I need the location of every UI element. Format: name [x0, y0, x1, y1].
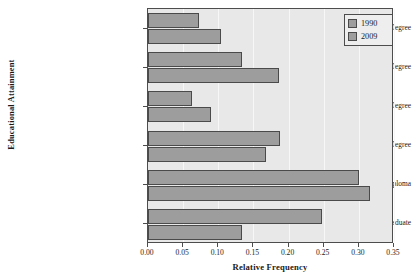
x-axis-tick: [288, 243, 289, 247]
x-axis-tick-label: 0.10: [197, 248, 237, 257]
bar-1990: [148, 131, 280, 146]
x-axis-title: Relative Frequency: [147, 262, 393, 272]
legend-swatch: [348, 19, 357, 28]
x-axis-tick-label: 0.25: [303, 248, 343, 257]
legend-swatch: [348, 32, 357, 41]
x-axis-tick: [182, 243, 183, 247]
legend-item: 2009: [348, 30, 389, 43]
bar-group: [148, 52, 392, 83]
bar-1990: [148, 170, 359, 185]
x-axis-tick: [147, 243, 148, 247]
legend-label: 2009: [361, 32, 377, 41]
gridline: [394, 9, 395, 242]
legend-item: 1990: [348, 17, 389, 30]
x-axis-tick-label: 0.35: [373, 248, 413, 257]
x-axis-tick: [252, 243, 253, 247]
bar-2009: [148, 147, 266, 162]
bar-1990: [148, 13, 199, 28]
bar-group: [148, 91, 392, 122]
bar-group: [148, 170, 392, 201]
bar-2009: [148, 29, 221, 44]
legend-label: 1990: [361, 19, 377, 28]
bar-2009: [148, 68, 279, 83]
x-axis-tick: [323, 243, 324, 247]
chart-legend: 19902009: [344, 14, 393, 46]
bar-group: [148, 209, 392, 240]
bar-group: [148, 131, 392, 162]
x-axis-tick-label: 0.30: [338, 248, 378, 257]
bar-1990: [148, 91, 192, 106]
x-axis-tick: [393, 243, 394, 247]
bar-1990: [148, 52, 242, 67]
x-axis-tick: [217, 243, 218, 247]
bar-1990: [148, 209, 322, 224]
x-axis-tick-label: 0.20: [268, 248, 308, 257]
bar-2009: [148, 225, 242, 240]
bar-2009: [148, 107, 211, 122]
x-axis-tick-label: 0.05: [162, 248, 202, 257]
x-axis: 0.000.050.100.150.200.250.300.35 Relativ…: [147, 243, 393, 280]
x-axis-tick-label: 0.15: [232, 248, 272, 257]
y-axis-title: Educational Attainment: [7, 30, 16, 180]
x-axis-tick-label: 0.00: [127, 248, 167, 257]
bar-2009: [148, 186, 370, 201]
x-axis-tick: [358, 243, 359, 247]
